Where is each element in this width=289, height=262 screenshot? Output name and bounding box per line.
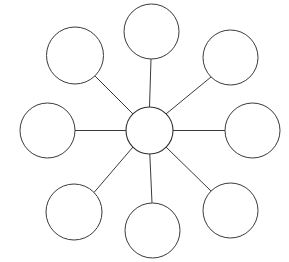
satellite-node-southeast[interactable]: [203, 183, 258, 238]
node-circle-west[interactable]: [20, 103, 75, 158]
satellite-node-northeast[interactable]: [203, 30, 258, 85]
satellite-node-south[interactable]: [125, 203, 180, 258]
center-node[interactable]: [126, 107, 173, 154]
node-circle-south[interactable]: [125, 203, 180, 258]
node-circle-east[interactable]: [225, 103, 280, 158]
satellite-node-southwest[interactable]: [46, 184, 102, 240]
node-circle-southwest[interactable]: [46, 184, 102, 240]
satellite-node-north[interactable]: [124, 4, 179, 59]
spoke-line-northeast: [166, 77, 211, 114]
node-circle-north[interactable]: [124, 4, 179, 59]
spoke-line-north: [150, 59, 152, 107]
radial-diagram: [0, 0, 289, 262]
node-circle-northeast[interactable]: [203, 30, 258, 85]
spoke-line-southeast: [166, 147, 211, 191]
satellite-node-northwest[interactable]: [47, 27, 104, 84]
satellite-node-west[interactable]: [20, 103, 75, 158]
diagram-canvas: [0, 0, 289, 262]
spoke-line-south: [150, 154, 152, 203]
node-circle-center[interactable]: [126, 107, 173, 154]
spoke-line-southwest: [94, 147, 133, 192]
node-circle-southeast[interactable]: [203, 183, 258, 238]
spoke-line-northwest: [95, 76, 133, 114]
node-circle-northwest[interactable]: [47, 27, 104, 84]
satellite-node-east[interactable]: [225, 103, 280, 158]
